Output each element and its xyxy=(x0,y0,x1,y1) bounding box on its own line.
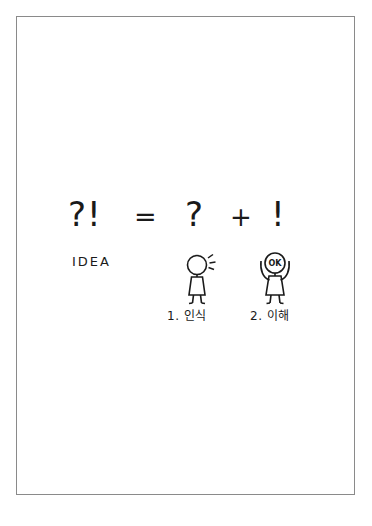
stick-figure-understanding: OK xyxy=(248,250,306,310)
figure-1-caption: 1. 인식 xyxy=(167,310,207,322)
question-mark-term: ? xyxy=(185,197,204,231)
equals-sign: = xyxy=(134,203,157,230)
idea-label: IDEA xyxy=(72,255,111,268)
ok-head-text: OK xyxy=(269,259,283,268)
idea-spark-icon xyxy=(208,255,216,270)
stick-figure-recognition xyxy=(178,253,230,309)
plus-sign: + xyxy=(230,204,252,230)
sketch-page: ?! = ? + ! IDEA OK xyxy=(0,0,372,526)
exclamation-mark-term: ! xyxy=(271,197,285,231)
figure-2-caption: 2. 이해 xyxy=(250,310,290,322)
equation-left-side: ?! xyxy=(68,197,102,231)
